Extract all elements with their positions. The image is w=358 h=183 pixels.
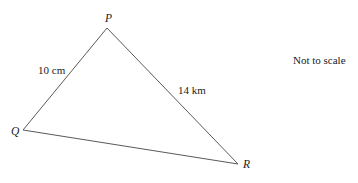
side-label-pq: 10 cm bbox=[38, 65, 65, 76]
vertex-label-p: P bbox=[105, 13, 112, 25]
side-label-pr: 14 km bbox=[178, 85, 206, 96]
geometry-diagram: P Q R 10 cm 14 km Not to scale bbox=[0, 0, 358, 183]
vertex-label-r: R bbox=[243, 159, 250, 171]
not-to-scale-note: Not to scale bbox=[293, 55, 346, 66]
vertex-label-q: Q bbox=[11, 126, 19, 138]
